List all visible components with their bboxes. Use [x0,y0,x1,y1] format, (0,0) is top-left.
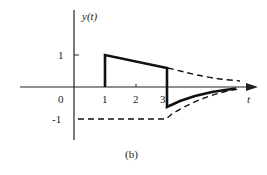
x-tick-label-2: 2 [133,93,139,105]
y-tick-label-minus1: -1 [52,113,61,125]
y-tick-label-1: 1 [58,49,64,61]
y-axis-title: y(t) [81,10,98,23]
signal-curve [105,55,236,107]
origin-label: 0 [58,93,64,105]
x-tick-label-3: 3 [160,93,166,105]
upper-envelope [168,68,240,81]
signal-plot: 1 -1 0 1 2 3 y(t) t (b) [0,0,267,175]
x-tick-label-1: 1 [102,93,108,105]
x-axis-title: t [247,93,251,105]
x-axis-arrow-icon [246,83,258,91]
figure-caption: (b) [125,148,138,161]
